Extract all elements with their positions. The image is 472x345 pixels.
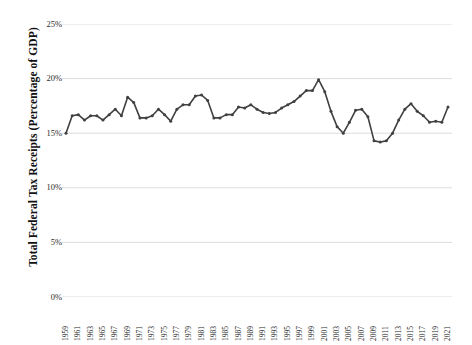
data-point [225,113,228,116]
gridlines [62,24,452,297]
plot-area [62,24,452,297]
x-axis-tick-labels: 1959196119631965196719691971197319751977… [62,299,452,345]
chart-container: Total Federal Tax Receipts (Percentage o… [0,0,472,345]
data-point [145,116,148,119]
y-axis-tick-label: 5% [32,238,62,247]
data-point [114,108,117,111]
data-point [286,103,289,106]
data-point [175,108,178,111]
data-point [65,132,68,135]
y-axis-tick-label: 0% [32,293,62,302]
data-point [262,111,265,114]
data-point [138,116,141,119]
y-axis-tick-labels: 0%5%10%15%20%25% [28,0,62,345]
data-point [336,125,339,128]
data-point [132,101,135,104]
data-point [200,93,203,96]
data-point [126,96,129,99]
data-point [447,105,450,108]
data-point [256,108,259,111]
data-point [440,121,443,124]
data-point [108,113,111,116]
data-point [342,132,345,135]
data-point [280,107,283,110]
data-point [391,132,394,135]
data-point [428,121,431,124]
y-axis-tick-label: 25% [32,20,62,29]
data-point [311,89,314,92]
data-point [188,103,191,106]
y-axis-tick-label: 20% [32,74,62,83]
data-point [299,95,302,98]
data-point [360,108,363,111]
data-point [329,110,332,113]
data-point [268,112,271,115]
y-axis-tick-label: 15% [32,129,62,138]
data-point [83,119,86,122]
data-point [77,113,80,116]
data-point [182,103,185,106]
data-point [366,115,369,118]
data-point [237,105,240,108]
data-point [231,113,234,116]
data-point [410,102,413,105]
data-point [373,139,376,142]
data-point [95,114,98,117]
data-point [323,90,326,93]
data-point [354,109,357,112]
data-point [416,110,419,113]
data-point [89,114,92,117]
data-point [379,140,382,143]
data-point [212,116,215,119]
data-point [403,108,406,111]
data-point [206,99,209,102]
data-point [163,113,166,116]
data-point [169,120,172,123]
data-point [348,121,351,124]
data-point [422,114,425,117]
data-point [317,78,320,81]
line-chart-svg [62,24,452,297]
data-point [101,119,104,122]
data-point [434,120,437,123]
data-point [219,116,222,119]
data-point [71,114,74,117]
data-point [249,103,252,106]
data-point [151,114,154,117]
data-point [120,114,123,117]
x-axis-tick-label: 2021 [427,315,469,325]
data-point [385,139,388,142]
data-point [397,119,400,122]
data-point [243,107,246,110]
y-axis-tick-label: 10% [32,183,62,192]
data-series-line [66,80,448,142]
data-point [157,108,160,111]
data-point [292,100,295,103]
data-point [305,89,308,92]
data-point [194,95,197,98]
data-point [274,111,277,114]
